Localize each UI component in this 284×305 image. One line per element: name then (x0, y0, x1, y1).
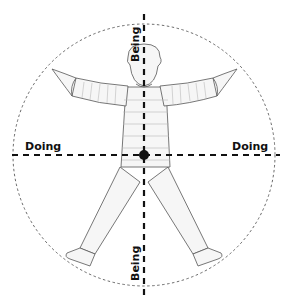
left-hand (52, 69, 76, 96)
left-leg (80, 167, 140, 254)
being-label-top: Being (130, 27, 141, 62)
right-arm (160, 78, 217, 106)
right-hand (213, 69, 237, 96)
right-leg (148, 167, 208, 254)
doing-label-left: Doing (25, 141, 61, 152)
left-arm (72, 78, 128, 106)
being-label-bottom: Being (130, 246, 141, 281)
doing-label-right: Doing (232, 141, 268, 152)
center-dot (139, 150, 149, 160)
